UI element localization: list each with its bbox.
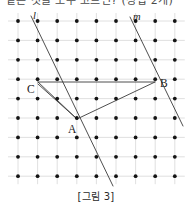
figure-shapes xyxy=(31,16,183,186)
grid-dot xyxy=(153,155,157,159)
grid-dot xyxy=(114,97,118,101)
grid-dot xyxy=(55,58,59,62)
grid-dot xyxy=(75,19,79,23)
geometry-figure: 같은 것을 모두 고르면? (정답 2개) CBAlm [그림 3] xyxy=(0,0,192,209)
grid-dot xyxy=(75,39,79,43)
grid-dot xyxy=(114,155,118,159)
grid-dot xyxy=(153,97,157,101)
grid-dot xyxy=(134,116,138,120)
grid-dot xyxy=(173,155,177,159)
grid-dot xyxy=(173,174,177,178)
grid-dot xyxy=(134,97,138,101)
grid-dot xyxy=(173,58,177,62)
grid-dot xyxy=(75,77,79,81)
grid-dot xyxy=(75,116,79,120)
point-label-b: B xyxy=(160,77,168,89)
grid-dot xyxy=(114,39,118,43)
grid-dot xyxy=(75,97,79,101)
grid-dot xyxy=(55,174,59,178)
grid-dot xyxy=(36,19,40,23)
grid-dot xyxy=(173,97,177,101)
grid-dot xyxy=(114,19,118,23)
grid-dot xyxy=(173,77,177,81)
figure-caption: [그림 3] xyxy=(0,188,192,203)
grid-dot xyxy=(95,77,99,81)
grid-dot xyxy=(36,77,40,81)
grid-dot xyxy=(134,174,138,178)
line-l xyxy=(31,16,113,186)
grid-dot xyxy=(173,136,177,140)
grid-dot xyxy=(114,58,118,62)
grid-dot xyxy=(114,77,118,81)
grid-dot xyxy=(153,19,157,23)
grid-dot xyxy=(55,116,59,120)
grid-dot xyxy=(114,136,118,140)
grid-dot xyxy=(75,174,79,178)
grid-dot xyxy=(16,39,20,43)
grid-dot xyxy=(95,97,99,101)
grid-dot xyxy=(75,136,79,140)
grid-dot xyxy=(134,77,138,81)
grid-dot xyxy=(153,116,157,120)
grid-dot xyxy=(55,155,59,159)
grid-dot xyxy=(95,136,99,140)
grid-dot xyxy=(16,136,20,140)
grid-dot xyxy=(153,174,157,178)
grid-dot xyxy=(55,136,59,140)
grid-dot xyxy=(173,39,177,43)
grid-dot xyxy=(153,58,157,62)
grid-dot xyxy=(153,39,157,43)
grid-dot xyxy=(55,19,59,23)
grid-dot xyxy=(55,97,59,101)
point-label-c: C xyxy=(27,83,35,95)
grid-dot xyxy=(16,77,20,81)
grid-dot xyxy=(16,58,20,62)
grid-dot xyxy=(36,58,40,62)
grid-dot xyxy=(75,155,79,159)
grid-dot xyxy=(36,97,40,101)
point-label-a: A xyxy=(68,123,77,135)
grid-dot xyxy=(153,77,157,81)
grid-dot xyxy=(36,174,40,178)
grid-dot xyxy=(134,58,138,62)
grid-dot xyxy=(55,77,59,81)
grid-dot xyxy=(36,39,40,43)
grid-dot xyxy=(16,116,20,120)
grid-dot xyxy=(114,116,118,120)
grid-dot xyxy=(95,174,99,178)
grid-dot xyxy=(36,116,40,120)
grid-dot xyxy=(173,116,177,120)
grid-dot xyxy=(95,19,99,23)
line-label-m: m xyxy=(133,11,141,22)
grid-dot xyxy=(36,155,40,159)
grid-dot xyxy=(95,155,99,159)
grid-dot xyxy=(95,58,99,62)
line-label-l: l xyxy=(33,10,36,21)
grid-dot xyxy=(173,19,177,23)
grid-dot xyxy=(16,174,20,178)
grid-dot xyxy=(114,174,118,178)
lattice-diagram: CBAlm xyxy=(0,0,192,209)
grid-dot xyxy=(95,39,99,43)
grid-dot xyxy=(153,136,157,140)
grid-dot xyxy=(75,58,79,62)
grid-dot xyxy=(134,136,138,140)
grid-dot xyxy=(16,155,20,159)
grid-dot xyxy=(134,155,138,159)
grid-dot xyxy=(134,39,138,43)
grid-dot xyxy=(55,39,59,43)
grid-dot xyxy=(16,97,20,101)
grid-dot xyxy=(95,116,99,120)
figure-labels: CBAlm xyxy=(27,10,168,135)
grid-dot xyxy=(16,19,20,23)
grid-dot xyxy=(36,136,40,140)
